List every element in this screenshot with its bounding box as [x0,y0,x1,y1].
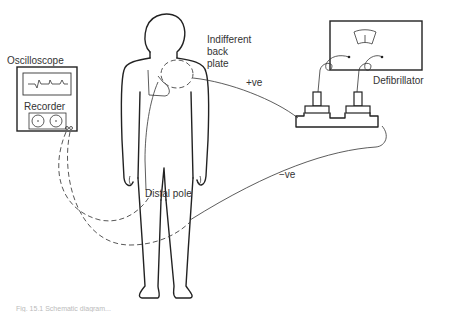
positive-label: +ve [246,77,263,88]
diagram-canvas: Oscilloscope Recorder Indifferent back p… [0,0,449,312]
defibrillator-label: Defibrillator [373,75,424,86]
distal-pole-label: Distal pole [145,188,192,199]
oscilloscope-recorder-unit [17,67,77,131]
recorder-reels [29,113,66,129]
oscilloscope-label: Oscilloscope [7,55,64,66]
indifferent-back-plate [161,60,193,88]
human-figure [121,14,208,298]
negative-label: −ve [279,169,296,180]
catheter-line [145,82,158,190]
indifferent-label-line2: back [207,46,229,57]
indifferent-label-line1: Indifferent [207,34,252,45]
figure-caption: Fig. 15.1 Schematic diagram... [16,305,111,312]
recorder-label: Recorder [24,101,66,112]
paddle-stand [296,92,378,127]
indifferent-label-line3: plate [207,58,229,69]
